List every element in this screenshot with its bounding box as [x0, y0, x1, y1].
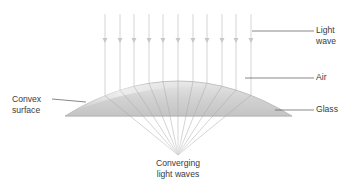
label-light-wave-line2: wave — [316, 36, 336, 47]
label-convex-line2: surface — [12, 105, 41, 116]
light-ray — [205, 14, 210, 83]
lens-diagram: Light wave Air Glass Convex surface Conv… — [0, 0, 358, 191]
light-ray — [191, 14, 196, 82]
arrowhead-icon — [191, 38, 196, 43]
light-ray — [147, 14, 152, 83]
light-ray — [249, 14, 254, 95]
label-converging: Converging light waves — [138, 158, 218, 180]
arrowhead-icon — [220, 38, 225, 43]
light-ray — [176, 14, 181, 81]
label-convex-line1: Convex — [12, 94, 41, 105]
light-ray — [161, 14, 166, 82]
convex-lens — [65, 81, 292, 116]
label-glass-text: Glass — [316, 104, 338, 115]
arrowhead-icon — [147, 38, 152, 43]
arrowhead-icon — [176, 38, 181, 43]
arrowhead-icon — [132, 38, 137, 43]
light-ray — [132, 14, 137, 86]
light-ray — [234, 14, 239, 90]
light-ray — [118, 14, 123, 90]
label-air: Air — [316, 72, 327, 83]
label-air-text: Air — [316, 72, 327, 83]
arrowhead-icon — [118, 38, 123, 43]
light-ray — [220, 14, 225, 86]
label-glass: Glass — [316, 104, 338, 115]
leader-convex-surface — [52, 99, 86, 102]
arrowhead-icon — [234, 38, 239, 43]
label-light-wave-line1: Light — [316, 25, 336, 36]
light-ray — [103, 14, 108, 96]
label-converging-line1: Converging — [138, 158, 218, 169]
label-convex-surface: Convex surface — [12, 94, 41, 116]
arrowhead-icon — [249, 38, 254, 43]
arrowhead-icon — [205, 38, 210, 43]
label-converging-line2: light waves — [138, 169, 218, 180]
arrowhead-icon — [161, 38, 166, 43]
arrowhead-icon — [103, 38, 108, 43]
focal-point — [158, 136, 198, 155]
label-light-wave: Light wave — [316, 25, 336, 47]
